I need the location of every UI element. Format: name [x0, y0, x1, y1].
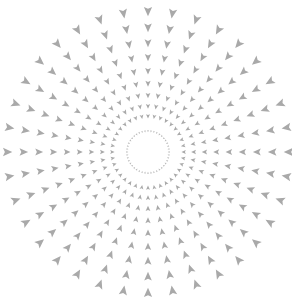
background — [0, 0, 292, 299]
radial-pattern — [0, 0, 292, 299]
